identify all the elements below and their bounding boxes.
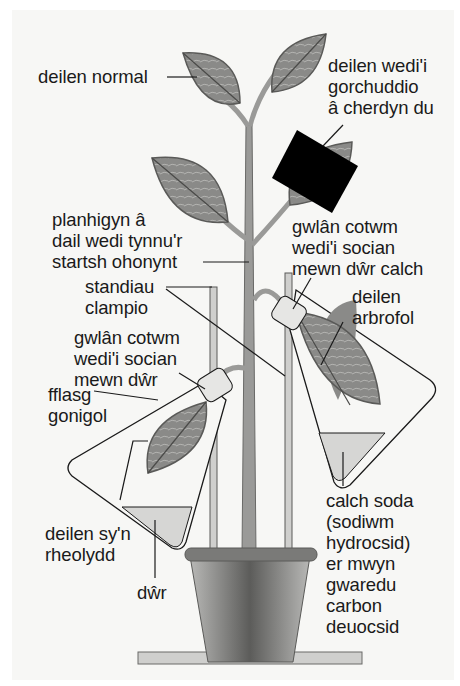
- label-cotton-wool-water: gwlân cotwm wedi'i socian mewn dŵr: [74, 327, 180, 390]
- water-liquid: [122, 507, 192, 547]
- label-cotton-wool-limewater: gwlân cotwm wedi'i socian mewn dŵr calch: [292, 216, 423, 279]
- label-control-leaf: deilen sy'n rheolydd: [45, 523, 131, 565]
- label-conical-flask: fflasg gonigol: [48, 384, 107, 426]
- label-clamp-stands: standiau clampio: [85, 276, 154, 318]
- plant-pot: [190, 556, 310, 662]
- pot-rim: [185, 548, 317, 561]
- stem: [242, 125, 256, 555]
- label-soda-lime: calch soda (sodiwm hydrocsid) er mwyn gw…: [326, 490, 413, 637]
- label-experimental-leaf: deilen arbrofol: [352, 286, 414, 328]
- label-covered-leaf: deilen wedi'i gorchuddio â cherdyn du: [328, 55, 434, 118]
- diagram-canvas: deilen normal deilen wedi'i gorchuddio â…: [0, 0, 460, 686]
- label-destarched-plant: planhigyn â dail wedi tynnu'r startsh oh…: [52, 209, 182, 272]
- label-water: dŵr: [137, 582, 167, 603]
- label-normal-leaf: deilen normal: [38, 66, 148, 87]
